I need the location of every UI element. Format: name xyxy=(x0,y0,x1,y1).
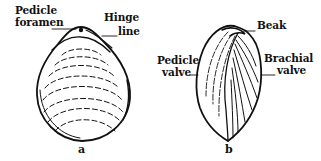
label-hinge-line-line1: Hinge xyxy=(104,12,139,23)
label-brachial-valve-line2: valve xyxy=(277,65,306,76)
label-pedicle-foramen-line2: foramen xyxy=(15,17,64,28)
label-pedicle-foramen-line1: Pedicle xyxy=(15,5,57,16)
label-beak: Beak xyxy=(257,20,286,31)
label-brachial-valve-line1: Brachial xyxy=(264,53,313,64)
label-pedicle-valve-line2: valve xyxy=(162,67,191,78)
shell-a-drawing xyxy=(37,27,130,141)
figure-letter-a: a xyxy=(78,144,85,155)
label-pedicle-valve-line1: Pedicle xyxy=(157,55,199,66)
figure-letter-b: b xyxy=(225,144,233,155)
shell-b-drawing xyxy=(196,26,261,141)
brachiopod-diagram: Pedicle foramen Hinge line a Beak Pedicl… xyxy=(0,0,321,161)
label-hinge-line-line2: line xyxy=(118,26,140,37)
